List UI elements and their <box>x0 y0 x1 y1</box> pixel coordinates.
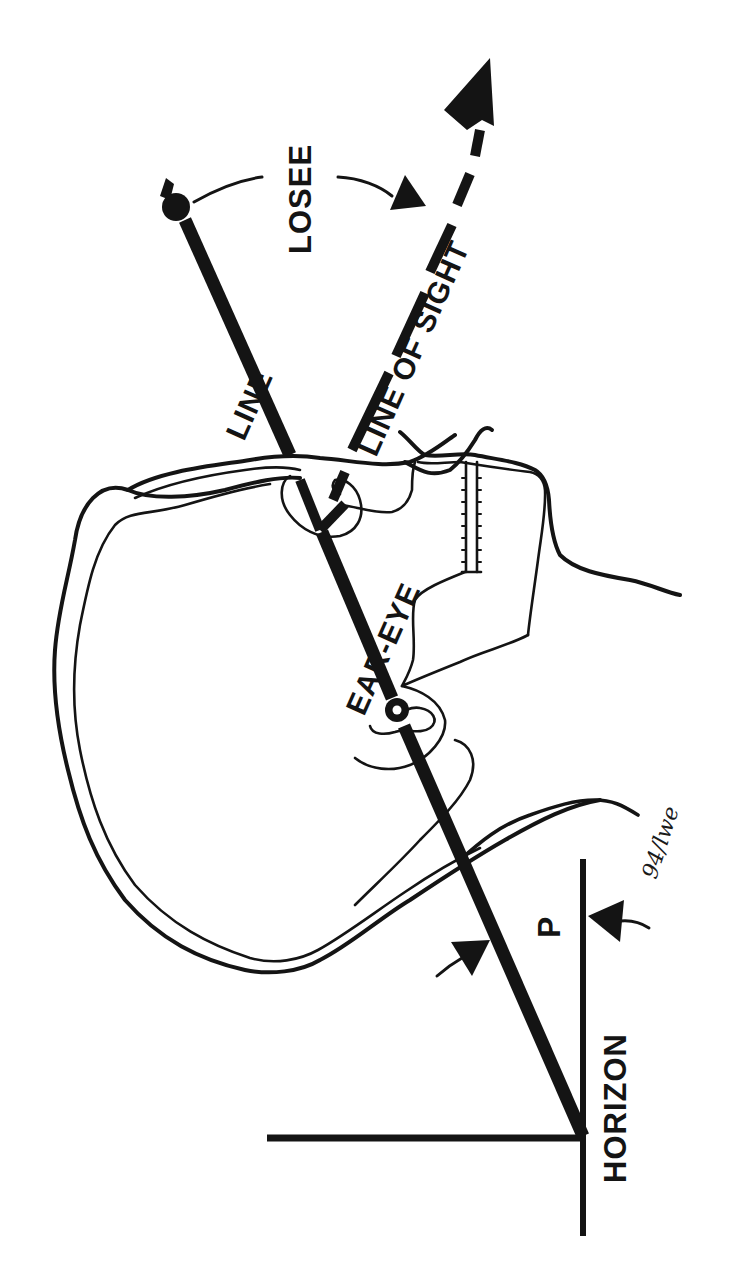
line-of-sight-label: LINE OF SIGHT <box>351 236 475 461</box>
skull-posture-diagram: LOSEE LINE LINE OF SIGHT EAR-EYE P HORIZ… <box>0 0 747 1286</box>
losee-label: LOSEE <box>283 144 318 254</box>
teeth <box>462 462 481 572</box>
p-label: P <box>531 917 567 938</box>
losee-arrowhead-icon <box>390 175 426 210</box>
arrowhead-icon <box>444 58 494 130</box>
skull-outline <box>54 428 600 972</box>
horizon-reference: HORIZON <box>267 859 633 1236</box>
p-angle-annotation: P <box>437 900 649 976</box>
losee-annotation: LOSEE <box>194 144 426 254</box>
horizon-label: HORIZON <box>598 1033 633 1183</box>
p-arrow-right-icon <box>588 900 624 942</box>
p-arrow-left-icon <box>451 940 490 976</box>
handwritten-annotation: 94/lwe <box>637 803 684 881</box>
